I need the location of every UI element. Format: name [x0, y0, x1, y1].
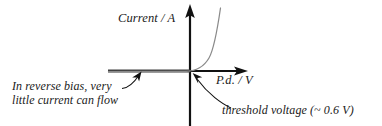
reverse-bias-annotation: In reverse bias, very little current can… [12, 79, 118, 107]
threshold-voltage-annotation: threshold voltage (~ 0.6 V) [222, 103, 354, 117]
diode-iv-characteristic-figure: Current / A P.d. / V In reverse bias, ve… [0, 0, 382, 126]
reverse-bias-leader-arrowhead [132, 72, 141, 82]
reverse-bias-annotation-line-1: In reverse bias, very [12, 79, 112, 93]
reverse-bias-annotation-line-2: little current can flow [12, 93, 118, 107]
threshold-leader-arrowhead [193, 73, 203, 83]
x-axis-label: P.d. / V [216, 73, 253, 88]
y-axis-label: Current / A [118, 11, 175, 26]
